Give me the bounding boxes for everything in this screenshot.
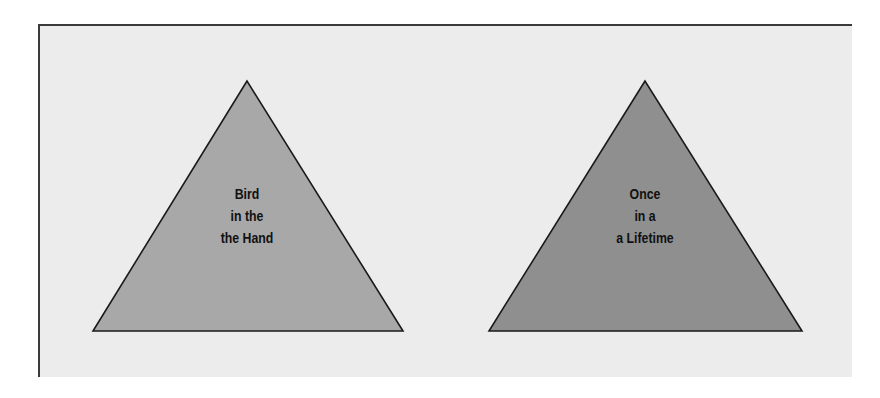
- label-line: a Lifetime: [600, 227, 690, 249]
- triangle-label-once-in-a-lifetime: Once in a a Lifetime: [600, 183, 690, 249]
- triangles-diagram: [0, 0, 880, 398]
- label-line: Once: [600, 183, 690, 205]
- label-line: in the: [206, 205, 288, 227]
- label-line: the Hand: [206, 227, 288, 249]
- label-line: in a: [600, 205, 690, 227]
- triangle-label-bird-in-the-hand: Bird in the the Hand: [206, 183, 288, 249]
- label-line: Bird: [206, 183, 288, 205]
